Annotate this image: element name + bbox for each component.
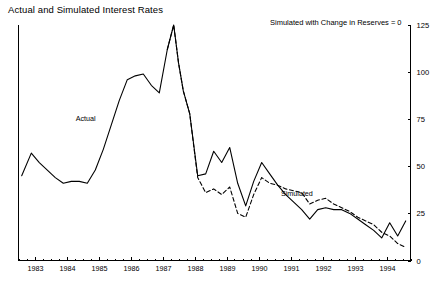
x-tick-label: 1993 [348,264,364,273]
y-tick-label: 75 [417,115,425,124]
axes-group [19,25,411,261]
x-tick-label: 1986 [124,264,140,273]
x-tick-label: 1987 [156,264,172,273]
series-label-actual: Actual [76,114,96,123]
x-tick-label: 1994 [380,264,396,273]
series-line-simulated [167,25,405,247]
x-tick-label: 1985 [92,264,108,273]
series-line-actual [22,25,406,238]
x-tick-label: 1991 [284,264,300,273]
annotation-group: ActualSimulated [76,114,313,198]
x-tick-label: 1983 [28,264,44,273]
x-tick-label: 1992 [316,264,332,273]
y-tick-label: 125 [417,21,430,30]
y-tick-label: 0 [417,257,421,266]
y-tick-label: 50 [417,162,425,171]
chart-container: Actual and Simulated Interest Rates Simu… [0,0,430,289]
x-tick-label: 1989 [220,264,236,273]
y-tick-label: 100 [417,68,430,77]
x-tick-label: 1990 [252,264,268,273]
x-tick-group: 1983198419851986198719881989199019911992… [20,257,412,273]
series-group [22,25,406,247]
x-tick-label: 1988 [188,264,204,273]
x-tick-label: 1984 [60,264,76,273]
chart-plot: 0255075100125 19831984198519861987198819… [0,0,430,289]
y-tick-label: 25 [417,209,425,218]
series-label-simulated: Simulated [281,189,313,198]
